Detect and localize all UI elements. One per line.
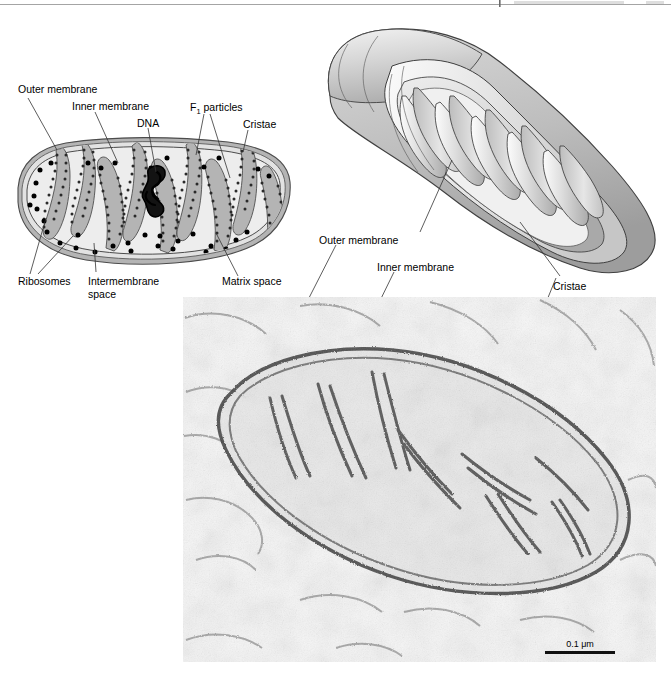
label-inner-membrane: Inner membrane [72,100,149,112]
label-inner-membrane-micrograph: Inner membrane [377,261,454,273]
electron-micrograph: 0.1 μm [183,297,656,662]
scale-bar-label: 0.1 μm [566,639,594,649]
cross-section-diagram: Outer membrane Inner membrane DNA F1 par… [18,83,290,300]
label-outer-membrane-micrograph: Outer membrane [319,234,399,246]
micrograph-film-grain [183,297,656,662]
label-f1-suffix: particles [201,101,243,113]
header-running-text [514,1,664,4]
label-matrix-space: Matrix space [222,275,282,287]
scale-bar-line [545,651,615,654]
label-intermembrane-space-line2: space [88,288,116,300]
label-outer-membrane: Outer membrane [18,83,98,95]
figure-page: Outer membrane Inner membrane DNA F1 par… [0,0,671,675]
label-cristae-cross-section: Cristae [243,118,276,130]
mitochondrion-figure: Outer membrane Inner membrane DNA F1 par… [0,0,671,675]
page-header [0,0,671,7]
label-intermembrane-space-line1: Intermembrane [88,275,159,287]
header-divider-tick [499,0,501,7]
label-ribosomes: Ribosomes [18,275,71,287]
label-dna: DNA [137,117,159,129]
label-f1-particles: F1 particles [190,101,243,116]
label-cristae-micrograph: Cristae [553,280,586,292]
